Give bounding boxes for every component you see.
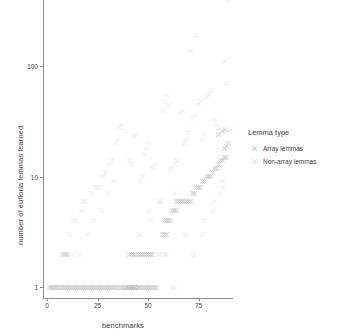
data-point: [173, 198, 180, 205]
y-tick-label: 1: [34, 284, 38, 291]
y-tick: [40, 287, 43, 288]
data-point: [92, 284, 99, 291]
data-point: [195, 101, 202, 108]
data-point: [66, 231, 73, 238]
data-point: [116, 124, 123, 131]
data-point: [86, 284, 93, 291]
data-point: [167, 217, 174, 224]
data-point: [199, 136, 206, 143]
data-point: [193, 184, 200, 191]
data-point: [126, 284, 133, 291]
data-point: [155, 251, 162, 258]
data-point: [100, 173, 107, 180]
data-point: [221, 126, 228, 133]
data-point: [187, 47, 194, 54]
data-point: [143, 251, 150, 258]
x-axis-title: benchmarks: [0, 321, 342, 330]
legend-item[interactable]: Non-array lemmas: [248, 156, 340, 167]
data-point: [141, 151, 148, 158]
data-point: [52, 284, 59, 291]
x-tick-label: 0: [45, 302, 49, 309]
data-point: [137, 178, 144, 185]
data-point: [68, 251, 75, 258]
data-point: [132, 284, 139, 291]
data-point: [106, 284, 113, 291]
data-point: [161, 231, 168, 238]
data-point: [139, 284, 146, 291]
x-tick: [199, 298, 200, 301]
data-point: [185, 198, 192, 205]
data-point: [157, 251, 164, 258]
data-point: [130, 251, 137, 258]
data-point: [173, 157, 180, 164]
data-point: [185, 129, 192, 136]
data-point: [70, 284, 77, 291]
data-point: [203, 173, 210, 180]
data-point: [62, 251, 69, 258]
data-point: [181, 140, 188, 147]
data-point: [135, 231, 142, 238]
legend-marker-x-icon: [248, 156, 261, 167]
data-point: [128, 284, 135, 291]
data-point: [217, 165, 224, 172]
data-point: [74, 284, 81, 291]
data-point: [102, 284, 109, 291]
data-point: [167, 165, 174, 172]
data-point: [181, 231, 188, 238]
y-axis-line: [43, 0, 44, 298]
data-point: [211, 116, 218, 123]
data-point: [149, 251, 156, 258]
data-point: [225, 140, 232, 147]
data-point: [52, 284, 59, 291]
y-axis-title: number of eufloria lemmas learned: [16, 126, 25, 245]
data-point: [207, 87, 214, 94]
data-point: [205, 173, 212, 180]
data-point: [211, 165, 218, 172]
data-point: [104, 190, 111, 197]
data-point: [197, 184, 204, 191]
data-point: [165, 217, 172, 224]
data-point: [183, 198, 190, 205]
data-point: [116, 284, 123, 291]
x-tick-label: 25: [94, 302, 101, 309]
data-point: [104, 284, 111, 291]
x-marker-icon: [251, 158, 258, 165]
data-point: [130, 284, 137, 291]
legend-marker-x-icon: [248, 143, 261, 154]
data-point: [215, 124, 222, 131]
data-point: [60, 284, 67, 291]
data-point: [177, 109, 184, 116]
data-point: [132, 284, 139, 291]
data-point: [118, 284, 125, 291]
data-point: [145, 140, 152, 147]
data-point: [221, 58, 228, 65]
data-point: [72, 284, 79, 291]
data-point: [90, 217, 97, 224]
data-point: [141, 251, 148, 258]
data-point: [116, 284, 123, 291]
legend-item-label: Array lemmas: [263, 145, 303, 152]
data-point: [203, 94, 210, 101]
legend-title: Lemma type: [248, 128, 340, 137]
data-point: [161, 251, 168, 258]
legend-item[interactable]: Array lemmas: [248, 143, 340, 154]
y-tick-label: 100: [27, 63, 38, 70]
data-point: [145, 251, 152, 258]
data-point: [149, 165, 156, 172]
data-point: [110, 284, 117, 291]
data-point: [215, 161, 222, 168]
data-point: [197, 98, 204, 105]
data-point: [100, 284, 107, 291]
data-point: [132, 131, 139, 138]
data-point: [78, 207, 85, 214]
data-point: [122, 284, 129, 291]
data-point: [62, 251, 69, 258]
data-point: [219, 178, 226, 185]
x-tick-label: 50: [144, 302, 151, 309]
data-point: [52, 284, 59, 291]
data-point: [135, 251, 142, 258]
data-point: [175, 198, 182, 205]
data-point: [217, 157, 224, 164]
data-point: [153, 284, 160, 291]
plot-area: [43, 0, 233, 298]
